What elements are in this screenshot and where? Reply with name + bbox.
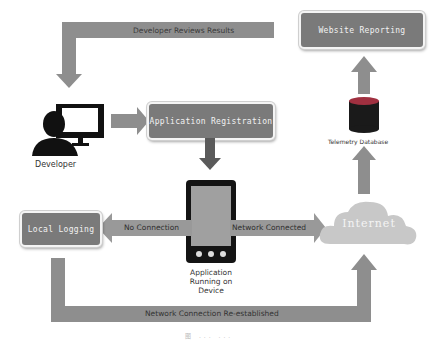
reviews-arrowhead-icon	[56, 74, 82, 88]
device-label: Application Running on Device	[180, 268, 242, 295]
database-to-reporting-arrow	[358, 72, 370, 94]
device-label-line2: Running on	[180, 277, 242, 286]
local-logging-label: Local Logging	[28, 225, 95, 234]
website-reporting-node: Website Reporting	[299, 11, 425, 49]
figure-caption: 图 ... ...	[185, 331, 233, 340]
internet-to-database-arrow	[358, 160, 370, 194]
local-logging-node: Local Logging	[20, 211, 102, 247]
device-label-line3: Device	[180, 286, 242, 295]
reviews-arrow-vertical	[62, 22, 76, 74]
edge-label-network-reestablished: Network Connection Re-established	[145, 309, 279, 318]
internet-to-database-arrowhead-icon	[352, 146, 376, 160]
internet-label: Internet	[334, 217, 404, 230]
application-registration-label: Application Registration	[150, 117, 273, 126]
edge-label-developer-reviews: Developer Reviews Results	[133, 26, 234, 35]
edge-label-no-connection: No Connection	[124, 223, 179, 232]
reestablished-arrow-right-vertical	[357, 270, 371, 322]
telemetry-database-label: Telemetry Database	[328, 138, 388, 145]
reestablished-arrowhead-icon	[351, 254, 377, 270]
application-registration-node: Application Registration	[147, 102, 275, 140]
database-to-reporting-arrowhead-icon	[351, 56, 377, 72]
reestablished-arrow-left-vertical	[51, 258, 65, 310]
dev-to-registration-arrow	[111, 114, 137, 128]
device-label-line1: Application	[180, 268, 242, 277]
registration-to-device-arrow	[205, 138, 215, 158]
developer-label: Developer	[35, 160, 76, 169]
website-reporting-label: Website Reporting	[319, 26, 406, 35]
device-icon	[186, 180, 236, 263]
edge-label-network-connected: Network Connected	[232, 223, 306, 232]
telemetry-database-icon	[348, 96, 380, 134]
developer-icon	[30, 104, 110, 156]
registration-to-device-arrowhead-icon	[199, 158, 221, 170]
